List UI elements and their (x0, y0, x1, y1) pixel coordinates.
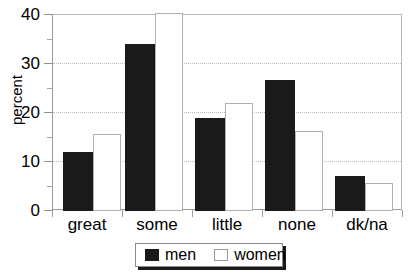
y-tick-major-20 (44, 112, 52, 113)
bar-men-dkna (335, 176, 365, 211)
legend-swatch-women-icon (214, 249, 228, 261)
bar-women-none (295, 131, 323, 211)
bar-women-little (225, 103, 253, 211)
legend-swatch-men-icon (145, 249, 159, 261)
bar-men-little (195, 118, 225, 211)
y-tick-label-40: 40 (0, 6, 40, 23)
y-tick-major-40 (44, 14, 52, 15)
bar-men-great (63, 152, 93, 211)
chart-legend: men women (135, 243, 283, 267)
bar-women-some (155, 13, 183, 211)
bar-chart: percent 40 30 20 10 0 (0, 0, 408, 274)
bar-women-dkna (365, 183, 393, 211)
legend-label-men: men (165, 247, 196, 263)
plot-area (52, 14, 402, 210)
x-tick-label-dkna: dk/na (322, 215, 408, 235)
legend-item-men: men (145, 247, 196, 263)
y-tick-major-0 (44, 210, 52, 211)
legend-item-women: women (214, 247, 286, 263)
legend-label-women: women (234, 247, 286, 263)
bar-women-great (93, 134, 121, 211)
y-tick-major-30 (44, 63, 52, 64)
bar-men-none (265, 80, 295, 211)
y-tick-major-10 (44, 161, 52, 162)
y-tick-label-20: 20 (0, 104, 40, 121)
bar-men-some (125, 44, 155, 211)
y-tick-label-30: 30 (0, 55, 40, 72)
y-tick-label-10: 10 (0, 153, 40, 170)
y-tick-label-0: 0 (0, 202, 40, 219)
gridline-30 (53, 63, 401, 64)
